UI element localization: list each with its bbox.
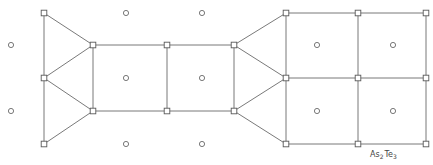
square-node-icon (90, 42, 96, 48)
square-node-icon (423, 141, 429, 147)
square-node-icon (164, 108, 170, 114)
formula-te: Te (383, 150, 393, 159)
square-node-icon (41, 10, 47, 16)
square-node-icon (164, 42, 170, 48)
bond-edge (44, 78, 93, 111)
circle-node-icon (199, 75, 204, 80)
circle-nodes (8, 10, 395, 146)
bond-edge (234, 78, 286, 111)
bond-edges (44, 13, 426, 144)
circle-node-icon (390, 42, 395, 47)
bond-edge (44, 45, 93, 78)
square-node-icon (283, 10, 289, 16)
square-node-icon (90, 108, 96, 114)
circle-node-icon (314, 108, 319, 113)
square-node-icon (41, 141, 47, 147)
circle-node-icon (199, 10, 204, 15)
formula-sub-2: 2 (380, 153, 384, 160)
circle-node-icon (314, 42, 319, 47)
circle-node-icon (123, 10, 128, 15)
square-node-icon (355, 10, 361, 16)
circle-node-icon (199, 141, 204, 146)
formula-label: As2Te3 (370, 150, 397, 160)
bond-edge (234, 111, 286, 144)
square-node-icon (355, 75, 361, 81)
circle-node-icon (123, 75, 128, 80)
formula-as: As (370, 150, 380, 159)
formula-sub-3: 3 (393, 153, 397, 160)
square-node-icon (231, 42, 237, 48)
square-node-icon (41, 75, 47, 81)
square-node-icon (283, 141, 289, 147)
square-node-icon (423, 10, 429, 16)
square-node-icon (283, 75, 289, 81)
circle-node-icon (8, 108, 13, 113)
crystal-structure-diagram: As2Te3 (0, 0, 433, 165)
circle-node-icon (390, 108, 395, 113)
circle-node-icon (123, 141, 128, 146)
bond-edge (44, 13, 93, 45)
square-node-icon (423, 75, 429, 81)
square-node-icon (231, 108, 237, 114)
bond-edge (44, 111, 93, 144)
circle-node-icon (8, 42, 13, 47)
square-node-icon (355, 141, 361, 147)
square-nodes (41, 10, 429, 147)
bond-edge (234, 13, 286, 45)
bond-edge (234, 45, 286, 78)
